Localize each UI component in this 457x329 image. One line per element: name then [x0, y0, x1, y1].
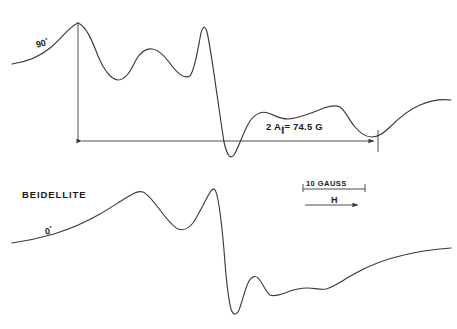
sample-name-label: BEIDELLITE — [22, 190, 86, 200]
scale-bar-label: 10 GAUSS — [306, 180, 347, 188]
spectrum-plot-area — [0, 0, 457, 329]
hyperfine-splitting-label: 2 A∥= 74.5 G — [266, 122, 323, 133]
orientation-label-0deg: 0° — [44, 225, 54, 236]
spectrum-trace-0deg — [12, 189, 451, 314]
hyperfine-value: = 74.5 G — [285, 121, 323, 132]
field-axis-label: H — [331, 196, 338, 205]
spectrum-figure: BEIDELLITE 90° 0° 2 A∥= 74.5 G 10 GAUSS … — [0, 0, 457, 329]
hyperfine-prefix: 2 A — [266, 121, 281, 132]
